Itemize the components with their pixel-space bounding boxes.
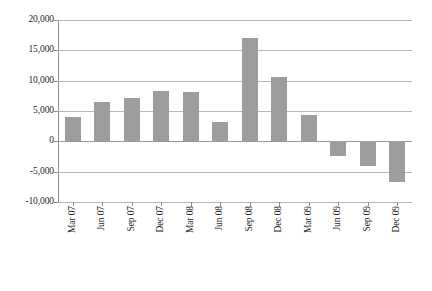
bar bbox=[330, 141, 346, 156]
bar-slot bbox=[265, 20, 295, 202]
bar bbox=[153, 91, 169, 141]
bar bbox=[65, 117, 81, 141]
bar-slot bbox=[58, 20, 88, 202]
x-axis-label-slot: Dec 07 bbox=[147, 206, 177, 291]
x-axis-tick-label: Mar 09 bbox=[304, 206, 314, 233]
bar bbox=[242, 38, 258, 142]
x-axis-label-slot: Jun 07 bbox=[88, 206, 118, 291]
x-axis-tick-label: Sep 08 bbox=[245, 206, 255, 232]
y-axis-tick-mark bbox=[54, 141, 58, 142]
y-axis-tick-label: -5,000 bbox=[2, 167, 54, 177]
bar bbox=[301, 115, 317, 142]
y-axis-tick-mark bbox=[54, 111, 58, 112]
gridline-neg10000 bbox=[58, 202, 412, 203]
y-axis-tick-mark bbox=[54, 20, 58, 21]
y-axis-tick-label: 20,000 bbox=[2, 15, 54, 25]
y-axis-tick-mark bbox=[54, 81, 58, 82]
bar-slot bbox=[206, 20, 236, 202]
bar-slot bbox=[383, 20, 413, 202]
y-axis-labels: 20,00015,00010,0005,0000-5,000-10,000 bbox=[0, 0, 54, 291]
bar bbox=[183, 92, 199, 141]
x-axis-tick-label: Jun 08 bbox=[216, 206, 226, 230]
x-axis-tick-label: Dec 08 bbox=[275, 206, 285, 233]
bar-slot bbox=[147, 20, 177, 202]
x-axis-label-slot: Jun 08 bbox=[206, 206, 236, 291]
x-axis-label-slot: Mar 07 bbox=[58, 206, 88, 291]
bar bbox=[124, 98, 140, 142]
bar-slot bbox=[88, 20, 118, 202]
y-axis-tick-mark bbox=[54, 50, 58, 51]
x-axis-label-slot: Mar 08 bbox=[176, 206, 206, 291]
bar-slot bbox=[353, 20, 383, 202]
bar bbox=[271, 77, 287, 141]
bar-slot bbox=[324, 20, 354, 202]
bar-slot bbox=[117, 20, 147, 202]
bar-chart: 20,00015,00010,0005,0000-5,000-10,000 Ma… bbox=[0, 0, 432, 291]
bar bbox=[212, 122, 228, 141]
bar bbox=[94, 102, 110, 141]
x-axis-tick-label: Jun 07 bbox=[98, 206, 108, 230]
x-axis-label-slot: Mar 09 bbox=[294, 206, 324, 291]
bar-slot bbox=[176, 20, 206, 202]
y-axis-tick-label: 0 bbox=[2, 137, 54, 147]
x-axis-tick-label: Jun 09 bbox=[334, 206, 344, 230]
bar-slot bbox=[294, 20, 324, 202]
y-axis-tick-mark bbox=[54, 172, 58, 173]
x-axis-tick-label: Dec 09 bbox=[393, 206, 403, 233]
bar bbox=[389, 141, 405, 182]
x-axis-tick-label: Sep 09 bbox=[363, 206, 373, 232]
bar bbox=[360, 141, 376, 165]
x-axis-label-slot: Sep 09 bbox=[353, 206, 383, 291]
y-axis-tick-label: 10,000 bbox=[2, 76, 54, 86]
y-axis-tick-mark bbox=[54, 202, 58, 203]
x-axis-label-slot: Sep 08 bbox=[235, 206, 265, 291]
y-axis-tick-label: -10,000 bbox=[2, 197, 54, 207]
x-axis-tick-label: Sep 07 bbox=[127, 206, 137, 232]
x-axis-label-slot: Dec 08 bbox=[265, 206, 295, 291]
y-axis-tick-label: 5,000 bbox=[2, 106, 54, 116]
x-axis-labels: Mar 07Jun 07Sep 07Dec 07Mar 08Jun 08Sep … bbox=[58, 206, 412, 291]
plot-area bbox=[58, 20, 412, 202]
x-axis-tick-label: Dec 07 bbox=[157, 206, 167, 233]
x-axis-label-slot: Sep 07 bbox=[117, 206, 147, 291]
x-axis-label-slot: Dec 09 bbox=[383, 206, 413, 291]
y-axis-tick-label: 15,000 bbox=[2, 46, 54, 56]
x-axis-tick-label: Mar 07 bbox=[68, 206, 78, 233]
x-axis-label-slot: Jun 09 bbox=[324, 206, 354, 291]
x-axis-tick-label: Mar 08 bbox=[186, 206, 196, 233]
bar-slot bbox=[235, 20, 265, 202]
